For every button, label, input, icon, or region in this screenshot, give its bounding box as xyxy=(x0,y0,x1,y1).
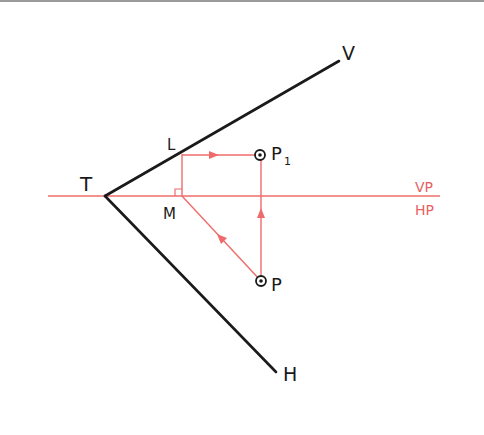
arrow-right-icon xyxy=(209,151,219,159)
right-angle-mark-icon xyxy=(175,189,182,196)
point-p1-marker-icon xyxy=(255,150,265,160)
point-p-marker-icon xyxy=(256,276,266,286)
label-l: L xyxy=(167,136,176,154)
label-m: M xyxy=(163,205,176,223)
label-v: V xyxy=(342,42,355,64)
label-t: T xyxy=(79,172,93,196)
label-h: H xyxy=(283,363,297,385)
vertical-trace-line-tv xyxy=(105,61,339,196)
label-vp: VP xyxy=(415,179,433,195)
horizontal-trace-line-th xyxy=(105,196,276,372)
reflection-diagram: T V H L M P 1 P VP HP xyxy=(0,0,484,435)
label-p: P xyxy=(271,274,282,295)
label-p1-subscript: 1 xyxy=(284,155,291,168)
label-hp: HP xyxy=(415,202,434,218)
arrow-up-icon xyxy=(257,208,265,218)
label-p1: P xyxy=(271,143,282,164)
